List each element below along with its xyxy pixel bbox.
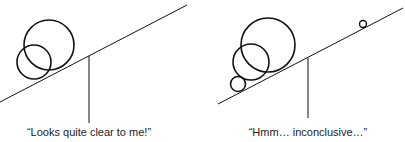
left-small-circle	[17, 45, 51, 79]
right-incline-line	[218, 8, 403, 104]
left-panel	[0, 5, 187, 123]
left-caption: “Looks quite clear to me!”	[27, 126, 151, 138]
right-large-circle	[241, 18, 295, 72]
right-tiny-circle	[360, 21, 367, 28]
diagram-canvas	[0, 0, 405, 142]
left-incline-line	[0, 5, 187, 102]
right-caption: “Hmm… inconclusive…”	[249, 126, 368, 138]
right-panel	[218, 8, 403, 118]
right-small-circle	[231, 77, 246, 92]
right-medium-circle	[233, 44, 269, 80]
